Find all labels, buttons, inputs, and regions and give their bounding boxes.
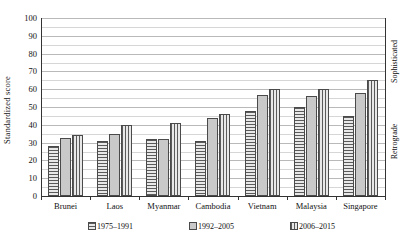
bar-group bbox=[188, 18, 237, 196]
legend-item: 1992–2005 bbox=[189, 222, 234, 231]
legend-swatch-icon bbox=[189, 222, 197, 230]
x-tick-label: Singapore bbox=[336, 201, 385, 215]
x-tick-label: Vietnam bbox=[238, 201, 287, 215]
bar bbox=[48, 146, 59, 196]
legend-label: 2006–2015 bbox=[299, 222, 335, 231]
annotation-sophisticated: Sophisticated bbox=[388, 24, 402, 98]
x-tick-mark bbox=[336, 196, 337, 200]
bar-groups bbox=[41, 18, 385, 196]
bar bbox=[195, 141, 206, 196]
annotation-sophisticated-text: Sophisticated bbox=[391, 39, 400, 82]
bar-group bbox=[238, 18, 287, 196]
bar-group bbox=[90, 18, 139, 196]
bar bbox=[257, 95, 268, 196]
annotation-retrograde-text: Retrograde bbox=[391, 123, 400, 159]
y-axis-ticks: 0102030405060708090100 bbox=[4, 18, 37, 196]
legend-label: 1975–1991 bbox=[97, 222, 133, 231]
chart-figure: Standardized score 010203040506070809010… bbox=[0, 0, 419, 241]
y-tick-label: 20 bbox=[7, 155, 37, 165]
x-tick-mark bbox=[41, 196, 42, 200]
x-tick-label: Cambodia bbox=[188, 201, 237, 215]
y-tick-label: 70 bbox=[7, 66, 37, 76]
legend-item: 2006–2015 bbox=[290, 222, 335, 231]
annotation-retrograde: Retrograde bbox=[388, 104, 402, 178]
bar bbox=[306, 96, 317, 196]
bar bbox=[72, 135, 83, 196]
x-tick-mark bbox=[385, 196, 386, 200]
bar bbox=[170, 123, 181, 196]
bar bbox=[219, 114, 230, 196]
bar bbox=[60, 138, 71, 196]
bar-group bbox=[336, 18, 385, 196]
bar bbox=[146, 139, 157, 196]
bar bbox=[109, 134, 120, 196]
bar bbox=[97, 141, 108, 196]
x-tick-mark bbox=[287, 196, 288, 200]
x-axis-labels: BruneiLaosMyanmarCambodiaVietnamMalaysia… bbox=[41, 201, 385, 215]
y-tick-label: 10 bbox=[7, 173, 37, 183]
y-tick-label: 50 bbox=[7, 102, 37, 112]
x-tick-label: Brunei bbox=[41, 201, 90, 215]
y-tick-label: 40 bbox=[7, 120, 37, 130]
x-tick-mark bbox=[90, 196, 91, 200]
x-tick-mark bbox=[188, 196, 189, 200]
y-tick-label: 0 bbox=[7, 191, 37, 201]
bar bbox=[158, 139, 169, 196]
bar bbox=[318, 89, 329, 196]
bar bbox=[355, 93, 366, 196]
x-tick-label: Myanmar bbox=[139, 201, 188, 215]
x-tick-label: Malaysia bbox=[287, 201, 336, 215]
x-tick-mark bbox=[238, 196, 239, 200]
chart-legend: 1975–19911992–20052006–2015 bbox=[41, 219, 385, 233]
y-tick-label: 80 bbox=[7, 49, 37, 59]
bar bbox=[207, 118, 218, 196]
bar-group bbox=[139, 18, 188, 196]
legend-swatch-icon bbox=[88, 222, 96, 230]
x-tick-label: Laos bbox=[90, 201, 139, 215]
bar-group bbox=[287, 18, 336, 196]
legend-swatch-icon bbox=[290, 222, 298, 230]
bar bbox=[294, 107, 305, 196]
y-tick-label: 30 bbox=[7, 138, 37, 148]
bar bbox=[121, 125, 132, 196]
bar bbox=[269, 89, 280, 196]
bar bbox=[367, 80, 378, 196]
right-axis-line bbox=[385, 18, 386, 197]
bar-group bbox=[41, 18, 90, 196]
bar bbox=[343, 116, 354, 196]
y-tick-label: 90 bbox=[7, 31, 37, 41]
x-tick-mark bbox=[139, 196, 140, 200]
y-axis-line bbox=[41, 18, 42, 197]
legend-label: 1992–2005 bbox=[198, 222, 234, 231]
y-tick-label: 100 bbox=[7, 13, 37, 23]
y-tick-label: 60 bbox=[7, 84, 37, 94]
bar bbox=[245, 111, 256, 196]
legend-item: 1975–1991 bbox=[88, 222, 133, 231]
